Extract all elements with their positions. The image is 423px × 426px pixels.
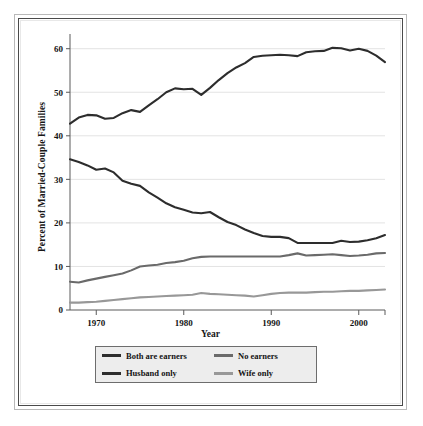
legend-item-both-are-earners[interactable]: Both are earners <box>102 352 214 361</box>
x-tick-labels: 1970198019902000 <box>87 318 368 328</box>
data-series <box>70 48 385 303</box>
legend-label-no-earners: No earners <box>238 352 278 361</box>
legend-item-husband-only[interactable]: Husband only <box>102 369 214 378</box>
y-tick-label: 60 <box>54 44 64 54</box>
legend-swatch-husband-only <box>102 372 121 375</box>
legend-item-wife-only[interactable]: Wife only <box>214 369 324 378</box>
legend-label-both-are-earners: Both are earners <box>126 352 187 361</box>
y-tick-label: 20 <box>54 218 64 228</box>
x-tick-label: 1970 <box>87 318 106 328</box>
x-tick-label: 1990 <box>262 318 281 328</box>
chart-legend: Both are earners No earners Husband only… <box>95 346 317 383</box>
axis-lines <box>70 34 385 310</box>
legend-item-no-earners[interactable]: No earners <box>214 352 324 361</box>
legend-swatch-both-are-earners <box>102 354 121 357</box>
legend-swatch-wife-only <box>214 372 233 375</box>
legend-swatch-no-earners <box>214 354 233 357</box>
series-line-both-are-earners <box>70 48 385 124</box>
series-line-no-earners <box>70 253 385 283</box>
y-axis-title: Percent of Married-Couple Families <box>37 87 47 267</box>
x-axis-title: Year <box>18 329 403 339</box>
y-tick-label: 10 <box>54 262 64 272</box>
series-line-husband-only <box>70 159 385 243</box>
x-tick-label: 1980 <box>175 318 194 328</box>
legend-label-husband-only: Husband only <box>126 369 177 378</box>
series-line-wife-only <box>70 290 385 303</box>
y-tick-label: 40 <box>54 131 64 141</box>
gridlines <box>70 49 385 267</box>
y-tick-label: 30 <box>54 175 64 185</box>
legend-label-wife-only: Wife only <box>238 369 273 378</box>
x-tick-label: 2000 <box>350 318 369 328</box>
y-tick-label: 0 <box>59 305 64 315</box>
y-tick-label: 50 <box>54 88 64 98</box>
line-chart: 0102030405060 1970198019902000 Percent o… <box>18 18 403 406</box>
y-tick-labels: 0102030405060 <box>54 44 64 315</box>
